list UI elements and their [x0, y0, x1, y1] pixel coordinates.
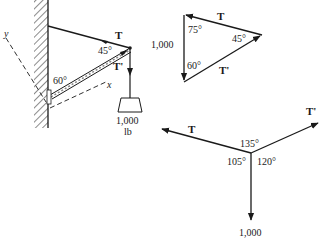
weight-block — [118, 98, 142, 112]
fd-angle-135: 135° — [240, 138, 259, 149]
load-unit: lb — [124, 126, 132, 137]
load-value: 1,000 — [116, 115, 139, 126]
triangle-T1-label: T' — [219, 64, 229, 76]
angle-60-label: 60° — [53, 75, 67, 86]
triangle-1000-label: 1,000 — [151, 39, 174, 50]
y-axis-label: y — [3, 28, 9, 39]
wall — [34, 0, 48, 128]
fd-T-label: T — [188, 123, 196, 135]
structure-diagram: y x T 45° T' 60° 1,000 lb — [3, 0, 142, 137]
statics-figure: y x T 45° T' 60° 1,000 lb T T' — [0, 0, 332, 242]
angle-45-label: 45° — [98, 45, 112, 56]
cable-T-arrow-icon — [100, 40, 108, 44]
fd-angle-105: 105° — [227, 156, 246, 167]
triangle-angle-75: 75° — [188, 24, 202, 35]
force-triangle: T T' 1,000 75° 45° 60° — [151, 10, 262, 82]
load-arrow-icon — [127, 68, 133, 76]
fd-angle-120: 120° — [257, 156, 276, 167]
triangle-angle-45: 45° — [232, 33, 246, 44]
triangle-T-label: T — [217, 10, 225, 22]
x-axis-label: x — [106, 79, 112, 90]
fd-load-value: 1,000 — [239, 227, 262, 238]
cable-T-label: T — [115, 29, 123, 41]
fd-T1-label: T' — [306, 105, 316, 117]
strut-T1-label: T' — [113, 60, 123, 72]
force-diagram: T T' 135° 105° 120° 1,000 — [162, 105, 318, 238]
triangle-angle-60: 60° — [187, 60, 201, 71]
